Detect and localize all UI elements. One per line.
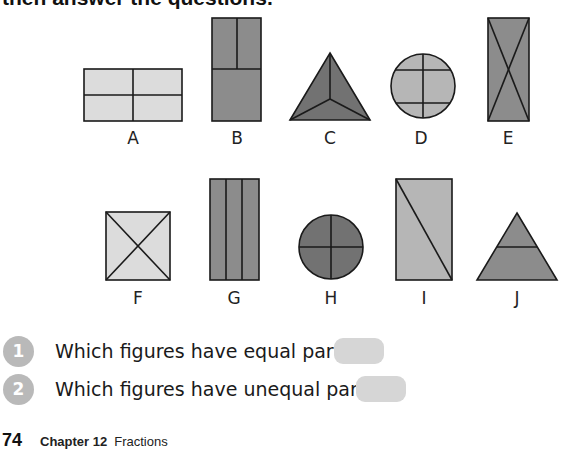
figure-a xyxy=(84,69,182,121)
figure-label-g: G xyxy=(227,288,240,308)
chapter-label: Chapter 12 xyxy=(40,434,107,449)
figure-label-e: E xyxy=(503,128,514,148)
figure-g xyxy=(210,179,259,280)
figure-label-a: A xyxy=(127,128,139,148)
figure-i xyxy=(396,179,452,280)
chapter-title: Fractions xyxy=(114,434,167,449)
figure-h xyxy=(299,215,363,279)
question-2: 2 Which figures have unequal parts? xyxy=(0,372,583,406)
question-1: 1 Which figures have equal parts? xyxy=(0,334,583,368)
question-number-badge: 1 xyxy=(3,336,34,367)
figure-c xyxy=(290,53,370,120)
figure-b xyxy=(212,18,261,121)
figure-label-b: B xyxy=(231,128,243,148)
answer-box-equal-parts[interactable] xyxy=(334,338,384,364)
figure-d xyxy=(385,50,461,122)
figure-label-f: F xyxy=(133,288,143,308)
question-text: Which figures have unequal parts? xyxy=(55,378,385,400)
figure-label-h: H xyxy=(325,288,338,308)
figure-label-i: I xyxy=(421,288,426,308)
figure-f xyxy=(106,212,170,280)
figure-label-c: C xyxy=(324,128,336,148)
figure-label-j: J xyxy=(514,288,519,308)
figure-j xyxy=(477,213,557,280)
answer-box-unequal-parts[interactable] xyxy=(356,376,406,402)
question-number-badge: 2 xyxy=(3,374,34,405)
figure-e xyxy=(488,18,529,121)
page-number: 74 xyxy=(2,430,22,451)
page-footer: 74 Chapter 12 Fractions xyxy=(2,430,168,451)
question-text: Which figures have equal parts? xyxy=(55,340,361,362)
figure-label-d: D xyxy=(414,128,427,148)
